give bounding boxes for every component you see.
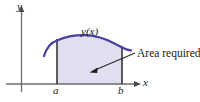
x-tick-label-b: b — [118, 85, 124, 96]
curve-label: y(x) — [81, 26, 98, 37]
figure-area-under-curve: y x a b y(x) Area required — [0, 0, 200, 102]
y-axis-label: y — [17, 1, 22, 12]
area-required-annotation: Area required — [137, 48, 200, 60]
x-tick-label-a: a — [53, 85, 59, 96]
x-axis-label: x — [143, 77, 148, 88]
x-axis-arrowhead — [134, 81, 141, 87]
